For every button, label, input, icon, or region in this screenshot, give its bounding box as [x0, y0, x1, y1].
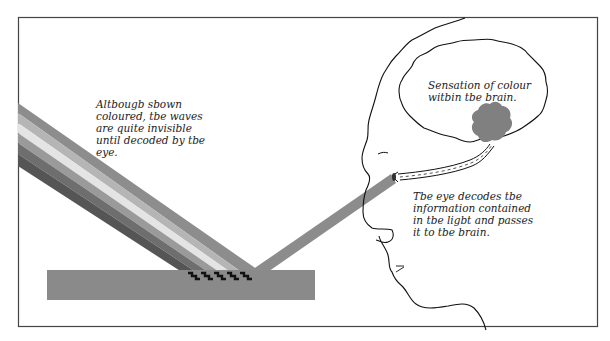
eye-caption: Tbe eye decodes tbe information containe… [413, 190, 543, 238]
reflective-surface [47, 270, 315, 300]
optic-nerve [398, 144, 494, 180]
diagram-illustration [0, 0, 610, 341]
colour-perception-diagram: Altbougb sbown coloured, tbe waves are q… [0, 0, 610, 341]
colour-sensation-spot [472, 102, 512, 142]
eyebrow-mark [378, 152, 388, 154]
reflected-light-beam [252, 174, 396, 276]
waves-caption: Altbougb sbown coloured, tbe waves are q… [96, 98, 216, 158]
brain-caption: Sensation of colour witbin tbe brain. [428, 79, 558, 103]
lips-mark [396, 266, 404, 272]
